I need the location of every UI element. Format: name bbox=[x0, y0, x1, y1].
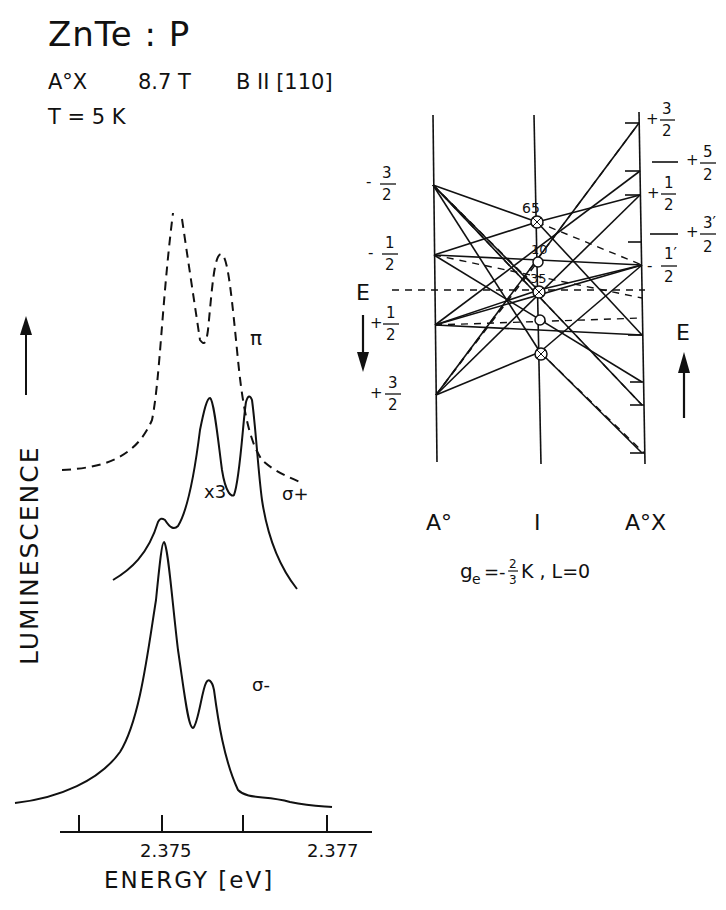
svg-text:2: 2 bbox=[703, 238, 713, 256]
svg-text:3′: 3′ bbox=[703, 214, 717, 232]
pi-label: π bbox=[250, 326, 262, 350]
svg-text:5: 5 bbox=[703, 143, 713, 161]
svg-text:1′: 1′ bbox=[664, 245, 678, 263]
svg-text:+: + bbox=[646, 110, 659, 128]
y-axis-arrow-icon bbox=[20, 316, 32, 395]
column-label-bound-exciton: A°X bbox=[625, 510, 666, 535]
left-level-labels: - 3 2 - 1 2 + 1 2 + 3 2 bbox=[366, 164, 401, 414]
svg-text:=-: =- bbox=[484, 561, 506, 582]
svg-text:2: 2 bbox=[386, 326, 396, 344]
intensity-10: 10 bbox=[531, 242, 548, 257]
svg-text:2: 2 bbox=[664, 268, 674, 286]
x-axis-label: ENERGY [eV] bbox=[104, 867, 274, 893]
svg-text:+: + bbox=[647, 184, 660, 202]
svg-text:3: 3 bbox=[382, 164, 392, 182]
svg-text:2: 2 bbox=[388, 396, 398, 414]
svg-text:2: 2 bbox=[703, 166, 713, 184]
svg-text:+: + bbox=[686, 151, 699, 169]
svg-text:-: - bbox=[366, 173, 371, 191]
column-label-intermediate: I bbox=[534, 510, 541, 535]
svg-text:K , L=0: K , L=0 bbox=[521, 560, 590, 582]
svg-text:2: 2 bbox=[662, 122, 672, 140]
energy-up-arrow-icon bbox=[678, 352, 690, 418]
svg-text:2: 2 bbox=[509, 557, 517, 571]
x-tick-2377: 2.377 bbox=[307, 840, 359, 861]
svg-text:+: + bbox=[370, 314, 383, 332]
g-factor-formula: g e =- 2 3 K , L=0 bbox=[460, 557, 590, 587]
svg-text:3: 3 bbox=[662, 100, 672, 118]
right-energy-label: E bbox=[676, 320, 690, 345]
sigma-minus-trace bbox=[15, 542, 332, 807]
svg-text:2: 2 bbox=[385, 256, 395, 274]
svg-text:1: 1 bbox=[386, 304, 396, 322]
svg-text:-: - bbox=[647, 257, 652, 275]
pi-trace bbox=[62, 213, 300, 482]
svg-text:1: 1 bbox=[385, 234, 395, 252]
sigma-minus-label: σ- bbox=[252, 674, 270, 695]
x-tick-2375: 2.375 bbox=[140, 840, 192, 861]
svg-text:g: g bbox=[460, 559, 473, 583]
x-axis bbox=[60, 815, 372, 832]
x3-label: x3 bbox=[204, 481, 226, 502]
intensity-35: 35 bbox=[530, 271, 547, 286]
svg-text:2: 2 bbox=[664, 196, 674, 214]
svg-text:+: + bbox=[686, 223, 699, 241]
svg-text:1: 1 bbox=[664, 174, 674, 192]
level-diagram bbox=[433, 112, 678, 464]
svg-text:+: + bbox=[370, 384, 383, 402]
right-level-labels: + 3 2 + 5 2 + 1 2 + 3′ 2 - 1′ 2 bbox=[646, 100, 717, 286]
svg-text:3: 3 bbox=[509, 573, 517, 587]
level-diagram-dashed bbox=[392, 123, 645, 453]
figure-canvas: LUMINESCENCE π x3 σ+ σ- 2.375 2.377 ENER… bbox=[0, 0, 726, 910]
y-axis-label: LUMINESCENCE bbox=[15, 446, 44, 666]
svg-text:2: 2 bbox=[382, 186, 392, 204]
left-energy-label: E bbox=[356, 280, 370, 305]
sigma-plus-label: σ+ bbox=[282, 483, 309, 504]
column-label-acceptor: A° bbox=[426, 510, 452, 535]
svg-text:e: e bbox=[472, 571, 481, 587]
svg-text:-: - bbox=[368, 244, 373, 262]
energy-down-arrow-icon bbox=[357, 315, 369, 372]
intensity-65: 65 bbox=[522, 200, 540, 216]
svg-text:3: 3 bbox=[388, 374, 398, 392]
